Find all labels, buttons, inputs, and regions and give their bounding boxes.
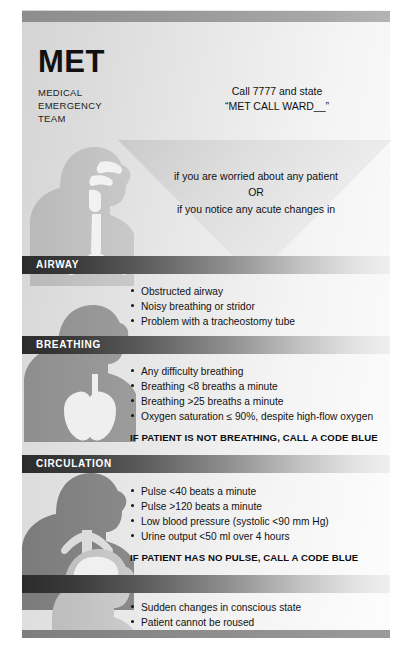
section-content-circulation: Pulse <40 beats a minute Pulse >120 beat… — [130, 484, 392, 563]
section-title-breathing: BREATHING — [36, 336, 101, 354]
list-item: Pulse <40 beats a minute — [130, 484, 392, 499]
list-item: Any difficulty breathing — [130, 364, 392, 379]
trigger-line-2: OR — [140, 184, 372, 200]
call-instruction-line-1: Call 7777 and state — [158, 84, 396, 99]
criteria-list-neurological: Sudden changes in conscious state Patien… — [130, 600, 392, 630]
list-item: Urine output <50 ml over 4 hours — [130, 529, 392, 544]
list-item: Breathing <8 breaths a minute — [130, 379, 392, 394]
list-item: Sudden changes in conscious state — [130, 600, 392, 615]
list-item: Noisy breathing or stridor — [130, 299, 392, 314]
trigger-line-3: if you notice any acute changes in — [140, 201, 372, 217]
call-instruction: Call 7777 and state “MET CALL WARD__” — [158, 84, 396, 114]
code-blue-warning-breathing: IF PATIENT IS NOT BREATHING, CALL A CODE… — [130, 432, 392, 443]
list-item: Obstructed airway — [130, 284, 392, 299]
list-item: Problem with a tracheostomy tube — [130, 314, 392, 329]
top-rule-bar — [22, 11, 390, 22]
met-poster: MET MEDICAL EMERGENCY TEAM Call 7777 and… — [0, 0, 412, 656]
code-blue-warning-circulation: IF PATIENT HAS NO PULSE, CALL A CODE BLU… — [130, 552, 392, 563]
list-item: Patient cannot be roused — [130, 615, 392, 630]
call-instruction-line-2: “MET CALL WARD__” — [158, 99, 396, 114]
criteria-list-airway: Obstructed airway Noisy breathing or str… — [130, 284, 392, 329]
criteria-list-circulation: Pulse <40 beats a minute Pulse >120 beat… — [130, 484, 392, 544]
list-item: Low blood pressure (systolic <90 mm Hg) — [130, 514, 392, 529]
section-content-airway: Obstructed airway Noisy breathing or str… — [130, 284, 392, 329]
trigger-criteria-text: if you are worried about any patient OR … — [140, 168, 372, 217]
section-title-airway: AIRWAY — [36, 256, 79, 274]
list-item: Pulse >120 beats a minute — [130, 499, 392, 514]
criteria-list-breathing: Any difficulty breathing Breathing <8 br… — [130, 364, 392, 424]
bottom-rule-bar — [22, 630, 390, 638]
section-content-neurological: Sudden changes in conscious state Patien… — [130, 600, 392, 630]
page-title: MET — [38, 46, 188, 77]
section-content-breathing: Any difficulty breathing Breathing <8 br… — [130, 364, 392, 443]
list-item: Oxygen saturation ≤ 90%, despite high-fl… — [130, 409, 392, 424]
section-band-neurological — [22, 575, 390, 593]
list-item: Breathing >25 breaths a minute — [130, 394, 392, 409]
trigger-line-1: if you are worried about any patient — [140, 168, 372, 184]
section-title-circulation: CIRCULATION — [36, 455, 112, 473]
